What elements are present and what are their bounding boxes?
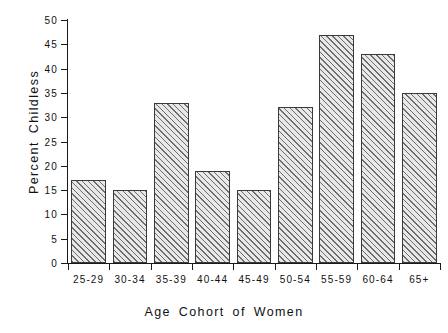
y-axis-tick xyxy=(61,117,68,118)
bar xyxy=(113,190,148,263)
y-axis-tick xyxy=(61,93,68,94)
bar xyxy=(402,93,437,263)
y-axis-tick-label: 45 xyxy=(2,39,58,50)
y-axis-tick xyxy=(61,69,68,70)
x-axis-tick xyxy=(440,264,441,270)
x-axis-tick xyxy=(399,264,400,270)
x-axis-tick-label: 55-59 xyxy=(321,274,352,285)
x-axis-tick xyxy=(357,264,358,270)
bar xyxy=(71,180,106,263)
y-axis-title: Percent Childless xyxy=(27,70,41,194)
x-axis-tick-label: 30-34 xyxy=(114,274,145,285)
y-axis-tick xyxy=(61,190,68,191)
y-axis-tick xyxy=(61,166,68,167)
y-axis-tick-label: 0 xyxy=(2,258,58,269)
y-axis-tick-label: 50 xyxy=(2,15,58,26)
y-axis-tick xyxy=(61,214,68,215)
x-axis-tick-label: 50-54 xyxy=(280,274,311,285)
y-axis-tick-label: 5 xyxy=(2,233,58,244)
bar xyxy=(195,171,230,263)
x-axis-tick-label: 60-64 xyxy=(362,274,393,285)
y-axis-tick-label: 10 xyxy=(2,209,58,220)
y-axis-tick xyxy=(61,142,68,143)
x-axis-tick-label: 40-44 xyxy=(197,274,228,285)
x-axis-title: Age Cohort of Women xyxy=(0,305,448,319)
y-axis-tick xyxy=(61,263,68,264)
bar xyxy=(319,35,354,263)
bar xyxy=(278,107,313,263)
y-axis-tick xyxy=(61,20,68,21)
bar xyxy=(361,54,396,263)
x-axis-tick xyxy=(68,264,69,270)
x-axis-tick xyxy=(233,264,234,270)
y-axis-tick xyxy=(61,44,68,45)
x-axis-tick-label: 25-29 xyxy=(73,274,104,285)
x-axis-tick-label: 45-49 xyxy=(238,274,269,285)
x-axis-tick xyxy=(316,264,317,270)
bar xyxy=(237,190,272,263)
x-axis-tick-label: 35-39 xyxy=(156,274,187,285)
y-axis-title-container: Percent Childless xyxy=(0,122,164,140)
x-axis-tick-label: 65+ xyxy=(409,274,429,285)
x-axis-tick xyxy=(192,264,193,270)
bar-chart-figure: 05101520253035404550 25-2930-3435-3940-4… xyxy=(0,0,448,333)
x-axis-tick xyxy=(275,264,276,270)
x-axis-tick xyxy=(109,264,110,270)
x-axis-line xyxy=(67,263,441,264)
y-axis-tick xyxy=(61,239,68,240)
x-axis-tick xyxy=(151,264,152,270)
plot-area xyxy=(68,20,440,263)
